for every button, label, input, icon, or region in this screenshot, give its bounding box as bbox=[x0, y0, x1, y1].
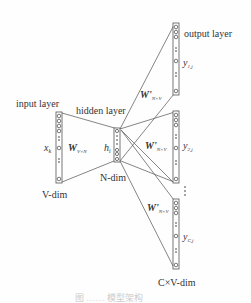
w-prime-3-label: W'N×V bbox=[147, 202, 169, 214]
cv-dim-label: C×V-dim bbox=[158, 277, 196, 288]
h-i-label: hi bbox=[104, 142, 111, 154]
output-layer-label: output layer bbox=[184, 28, 233, 39]
x-k-label: xk bbox=[43, 142, 51, 154]
v-dim-label: V-dim bbox=[42, 189, 67, 200]
figure-caption: 图 …… 模型架构 bbox=[75, 292, 143, 303]
y-2-label: y2,j bbox=[182, 140, 193, 153]
hidden-layer-label: hidden layer bbox=[76, 105, 126, 116]
output-column-1 bbox=[173, 23, 179, 95]
column-ellipsis bbox=[184, 186, 186, 196]
w-prime-1-label: W'N×V bbox=[140, 89, 162, 101]
w-prime-2-label: W'N×V bbox=[145, 140, 167, 152]
n-dim-label: N-dim bbox=[100, 172, 126, 183]
output-column-c bbox=[173, 199, 179, 269]
input-layer-label: input layer bbox=[16, 98, 60, 109]
output-column-2 bbox=[173, 111, 179, 183]
hidden-layer-column bbox=[114, 128, 120, 162]
y-c-label: yC,j bbox=[182, 231, 194, 244]
skipgram-diagram: input layer hidden layer output layer xk… bbox=[0, 0, 251, 303]
w-matrix-label: WV×N bbox=[68, 142, 87, 154]
y-1-label: y1,j bbox=[182, 57, 193, 70]
input-layer-column bbox=[56, 112, 62, 183]
